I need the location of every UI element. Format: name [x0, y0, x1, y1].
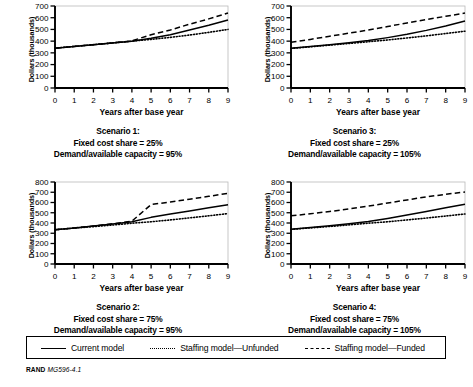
svg-text:9: 9 [463, 96, 468, 105]
svg-text:4: 4 [130, 272, 135, 281]
svg-text:Years after base year: Years after base year [336, 283, 421, 293]
figure-source-footer: RANDMG596-4.1 [26, 366, 81, 373]
svg-text:5: 5 [385, 96, 390, 105]
svg-text:3: 3 [110, 96, 115, 105]
svg-text:0: 0 [280, 84, 285, 93]
svg-text:200: 200 [271, 239, 285, 248]
legend-swatch-solid-icon [41, 343, 66, 353]
caption-capacity-scenario-3: Demand/available capacity = 105% [236, 149, 473, 161]
svg-text:500: 500 [35, 209, 49, 218]
caption-title-scenario-2: Scenario 2: [0, 302, 236, 314]
svg-text:9: 9 [226, 272, 231, 281]
svg-text:5: 5 [385, 272, 390, 281]
caption-fixed-cost-scenario-4: Fixed cost share = 75% [236, 314, 473, 326]
series-line-dashed [55, 13, 228, 48]
svg-text:700: 700 [271, 188, 285, 197]
figure-panel-grid: Dollars (thousands) 01002003004005006007… [0, 0, 473, 387]
caption-capacity-scenario-4: Demand/available capacity = 105% [236, 325, 473, 337]
footer-organization: RAND [26, 366, 45, 373]
svg-text:600: 600 [35, 14, 49, 23]
svg-text:0: 0 [289, 96, 294, 105]
plot-area-scenario-3: Dollars (thousands) 01002003004005006007… [236, 0, 473, 122]
legend-item-staffing-unfunded: Staffing model—Unfunded [150, 343, 278, 353]
svg-text:200: 200 [271, 60, 285, 69]
svg-text:1: 1 [308, 96, 313, 105]
svg-text:7: 7 [187, 272, 192, 281]
chart-svg-scenario-1: 01002003004005006007000123456789Years af… [0, 0, 236, 122]
series-line-dashed [55, 193, 228, 229]
caption-capacity-scenario-1: Demand/available capacity = 95% [0, 149, 236, 161]
svg-text:300: 300 [35, 49, 49, 58]
panel-scenario-1: Dollars (thousands) 01002003004005006007… [0, 0, 236, 176]
caption-scenario-1: Scenario 1: Fixed cost share = 25% Deman… [0, 126, 236, 161]
svg-text:Years after base year: Years after base year [100, 283, 185, 293]
svg-text:300: 300 [271, 229, 285, 238]
svg-text:9: 9 [463, 272, 468, 281]
legend-swatch-dotted-icon [150, 343, 175, 353]
svg-text:0: 0 [53, 96, 58, 105]
caption-fixed-cost-scenario-3: Fixed cost share = 25% [236, 138, 473, 150]
svg-text:400: 400 [271, 37, 285, 46]
chart-svg-scenario-2: 01002003004005006007008000123456789Years… [0, 176, 236, 298]
svg-text:2: 2 [91, 96, 96, 105]
svg-text:2: 2 [327, 96, 332, 105]
chart-svg-scenario-4: 01002003004005006007008000123456789Years… [236, 176, 473, 298]
caption-scenario-2: Scenario 2: Fixed cost share = 75% Deman… [0, 302, 236, 337]
svg-text:6: 6 [168, 272, 173, 281]
caption-scenario-3: Scenario 3: Fixed cost share = 25% Deman… [236, 126, 473, 161]
panel-scenario-2: Dollars (thousands) 01002003004005006007… [0, 176, 236, 352]
svg-text:600: 600 [271, 14, 285, 23]
svg-text:100: 100 [271, 250, 285, 259]
panel-scenario-3: Dollars (thousands) 01002003004005006007… [236, 0, 473, 176]
svg-text:0: 0 [289, 272, 294, 281]
legend: Current model Staffing model—Unfunded St… [26, 336, 446, 359]
caption-title-scenario-1: Scenario 1: [0, 126, 236, 138]
svg-text:3: 3 [347, 272, 352, 281]
svg-text:0: 0 [53, 272, 58, 281]
plot-area-scenario-4: Dollars (thousands) 01002003004005006007… [236, 176, 473, 298]
caption-fixed-cost-scenario-2: Fixed cost share = 75% [0, 314, 236, 326]
svg-text:Years after base year: Years after base year [100, 107, 185, 117]
svg-text:6: 6 [168, 96, 173, 105]
svg-text:2: 2 [327, 272, 332, 281]
svg-text:600: 600 [271, 198, 285, 207]
legend-swatch-dashed-icon [305, 343, 330, 353]
caption-scenario-4: Scenario 4: Fixed cost share = 75% Deman… [236, 302, 473, 337]
plot-area-scenario-2: Dollars (thousands) 01002003004005006007… [0, 176, 236, 298]
svg-text:200: 200 [35, 60, 49, 69]
svg-text:600: 600 [35, 198, 49, 207]
svg-text:800: 800 [35, 178, 49, 187]
svg-text:Years after base year: Years after base year [336, 107, 421, 117]
svg-text:1: 1 [72, 96, 77, 105]
svg-text:6: 6 [405, 272, 410, 281]
legend-item-staffing-funded: Staffing model—Funded [305, 343, 425, 353]
series-line-solid [55, 20, 228, 48]
svg-text:4: 4 [366, 272, 371, 281]
svg-text:700: 700 [35, 2, 49, 11]
svg-text:700: 700 [271, 2, 285, 11]
caption-title-scenario-4: Scenario 4: [236, 302, 473, 314]
svg-text:100: 100 [35, 250, 49, 259]
svg-text:500: 500 [35, 25, 49, 34]
svg-text:5: 5 [149, 96, 154, 105]
svg-text:1: 1 [308, 272, 313, 281]
legend-item-current-model: Current model [41, 343, 124, 353]
svg-text:400: 400 [35, 37, 49, 46]
svg-text:8: 8 [443, 96, 448, 105]
svg-text:7: 7 [424, 272, 429, 281]
svg-text:300: 300 [271, 49, 285, 58]
svg-text:0: 0 [44, 84, 49, 93]
svg-text:8: 8 [207, 96, 212, 105]
footer-figure-code: MG596-4.1 [47, 366, 81, 373]
panel-scenario-4: Dollars (thousands) 01002003004005006007… [236, 176, 473, 352]
chart-svg-scenario-3: 01002003004005006007000123456789Years af… [236, 0, 473, 122]
svg-text:3: 3 [110, 272, 115, 281]
svg-text:100: 100 [35, 72, 49, 81]
svg-text:1: 1 [72, 272, 77, 281]
svg-text:7: 7 [424, 96, 429, 105]
svg-text:6: 6 [405, 96, 410, 105]
svg-text:400: 400 [35, 219, 49, 228]
scenario-grid: Dollars (thousands) 01002003004005006007… [0, 0, 473, 352]
caption-capacity-scenario-2: Demand/available capacity = 95% [0, 325, 236, 337]
series-line-dashed [291, 192, 465, 216]
